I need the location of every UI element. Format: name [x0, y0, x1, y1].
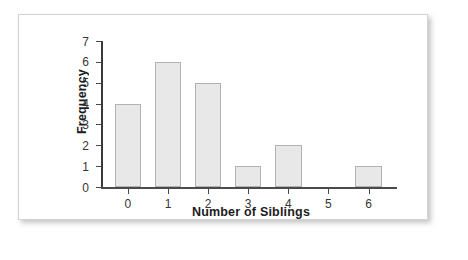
y-tick-label: 7 [82, 35, 89, 49]
y-tick: 0 [96, 187, 101, 188]
x-tick [128, 189, 129, 194]
y-tick-label: 0 [82, 181, 89, 195]
y-axis-line [101, 41, 103, 188]
x-tick [208, 189, 209, 194]
bar [115, 104, 141, 187]
y-tick-label: 4 [82, 97, 89, 111]
chart-panel: Frequency 01234567 0123456 Number of Sib… [18, 14, 428, 220]
y-tick: 3 [96, 124, 101, 125]
y-tick: 2 [96, 145, 101, 146]
bar [355, 166, 381, 187]
y-tick: 6 [96, 62, 101, 63]
plot-area: 01234567 0123456 [101, 41, 401, 187]
y-tick-label: 2 [82, 139, 89, 153]
y-tick-label: 3 [82, 118, 89, 132]
y-tick-label: 1 [82, 160, 89, 174]
y-tick: 5 [96, 83, 101, 84]
bar [195, 83, 221, 187]
bar [155, 62, 181, 187]
x-tick [369, 189, 370, 194]
y-tick-label: 6 [82, 55, 89, 69]
bar [235, 166, 261, 187]
screenshot-root: Frequency 01234567 0123456 Number of Sib… [0, 0, 468, 260]
x-tick [288, 189, 289, 194]
x-axis-title: Number of Siblings [101, 205, 401, 219]
x-tick [168, 189, 169, 194]
x-tick [248, 189, 249, 194]
y-tick: 1 [96, 166, 101, 167]
y-tick: 4 [96, 104, 101, 105]
y-tick: 7 [96, 41, 101, 42]
bar [275, 145, 301, 187]
x-tick [328, 189, 329, 194]
y-tick-label: 5 [82, 76, 89, 90]
